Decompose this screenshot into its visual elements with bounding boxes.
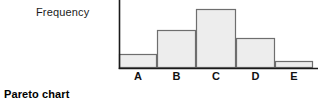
- x-axis-tick-label-e: E: [274, 70, 314, 83]
- bar-d: [237, 39, 275, 68]
- bar-b: [158, 31, 196, 68]
- x-axis-tick-label-c: C: [196, 70, 236, 83]
- x-axis-tick-label-d: D: [236, 70, 276, 83]
- x-axis-tick-label-b: B: [157, 70, 197, 83]
- bar-e: [276, 62, 313, 68]
- bars-group: [120, 10, 313, 68]
- figure-caption: Pareto chart: [4, 88, 69, 101]
- pareto-chart-figure: Frequency A B C D E Pareto chart: [0, 0, 321, 110]
- bar-a: [120, 55, 157, 68]
- bar-c: [197, 10, 236, 68]
- x-axis-tick-label-a: A: [118, 70, 158, 83]
